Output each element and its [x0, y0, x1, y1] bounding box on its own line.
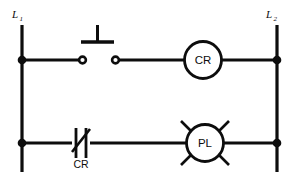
junction-dot-rung2-left — [18, 139, 27, 148]
right-rail-group: L 2 — [265, 8, 278, 172]
control-relay-coil-label: CR — [195, 54, 212, 66]
ladder-diagram: L 1 L 2 — [0, 0, 298, 180]
rung-1-group: CR — [18, 25, 282, 79]
left-rail-group: L 1 — [11, 8, 23, 172]
rung-2-group: CR PL — [18, 121, 282, 170]
ladder-diagram-canvas: L 1 L 2 — [0, 0, 298, 180]
pushbutton-terminal-right — [112, 57, 119, 64]
junction-dot-rung1-right — [273, 56, 282, 65]
cr-normally-closed-contact[interactable]: CR — [72, 128, 90, 170]
left-rail-label-subscript: 1 — [20, 15, 24, 23]
pilot-light-ray-lower-left — [181, 155, 192, 166]
right-rail-label: L — [265, 8, 272, 20]
control-relay-coil[interactable]: CR — [185, 42, 222, 79]
pilot-light[interactable]: PL — [181, 121, 229, 165]
pilot-light-ray-upper-left — [181, 121, 192, 132]
cr-contact-label: CR — [73, 158, 89, 170]
junction-dot-rung2-right — [273, 139, 282, 148]
pushbutton-terminal-left — [79, 57, 86, 64]
left-rail-label: L — [11, 8, 18, 20]
pilot-light-ray-upper-right — [219, 121, 230, 132]
right-rail-label-subscript: 2 — [274, 15, 278, 23]
junction-dot-rung1-left — [18, 56, 27, 65]
start-pushbutton[interactable] — [79, 25, 119, 63]
pilot-light-label: PL — [198, 137, 213, 149]
pilot-light-ray-lower-right — [219, 155, 230, 166]
